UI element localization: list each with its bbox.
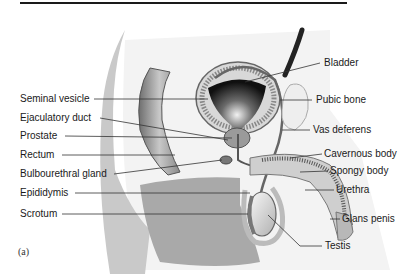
anatomy-illustration [0,0,420,274]
label-seminal-vesicle: Seminal vesicle [20,93,89,105]
label-testis: Testis [325,240,351,252]
label-rectum: Rectum [20,149,54,161]
label-pubic-bone: Pubic bone [316,94,366,106]
label-prostate: Prostate [20,130,57,142]
label-epididymis: Epididymis [20,187,68,199]
label-scrotum: Scrotum [20,208,57,220]
label-urethra: Urethra [336,184,369,196]
label-bulbourethral-gland: Bulbourethral gland [20,168,107,180]
label-glans-penis: Glans penis [342,213,395,225]
label-vas-deferens: Vas deferens [313,124,371,136]
label-bladder: Bladder [324,57,358,69]
label-cavernous-body: Cavernous body [324,148,397,160]
panel-label: (a) [18,246,29,257]
label-spongy-body: Spongy body [330,165,388,177]
label-ejaculatory-duct: Ejaculatory duct [20,112,91,124]
